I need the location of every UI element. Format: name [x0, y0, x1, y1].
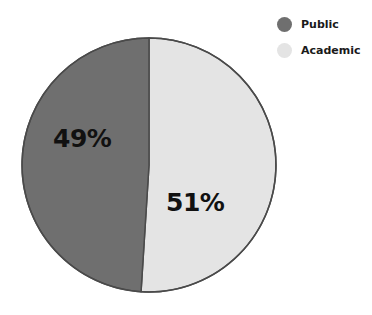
- legend-item-academic[interactable]: Academic: [277, 37, 372, 63]
- legend-swatch-academic-icon: [277, 43, 292, 58]
- pie-slice-academic[interactable]: [141, 38, 276, 292]
- legend-swatch-public-icon: [277, 17, 292, 32]
- pie-slice-label-public: 49%: [53, 126, 111, 151]
- legend-item-public[interactable]: Public: [277, 11, 372, 37]
- legend-label-public: Public: [301, 19, 339, 30]
- pie-slice-label-academic: 51%: [166, 190, 224, 215]
- pie-chart: 49% 51% Public Academic: [0, 0, 372, 315]
- pie-slice-public[interactable]: [22, 38, 149, 292]
- chart-legend: Public Academic: [277, 11, 372, 63]
- legend-label-academic: Academic: [301, 45, 361, 56]
